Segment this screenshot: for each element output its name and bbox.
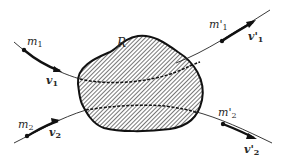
mass-m1-prime-dot	[220, 39, 224, 43]
interaction-region	[78, 36, 203, 131]
region-label: R	[116, 36, 126, 50]
mass-m1-dot	[22, 48, 26, 52]
mass-m1-prime-label: m'1	[209, 18, 228, 32]
velocity-v1-prime-arrow-icon	[246, 20, 256, 28]
mass-m1-label: m1	[27, 35, 43, 49]
velocity-v2-label: v2	[49, 126, 61, 140]
velocity-v1-prime-label: v'1	[248, 30, 263, 44]
diagram-svg: R m1 v1 m2 v2 m'1 v'1 m'2 v'2	[0, 0, 286, 164]
mass-m2-prime-dot	[221, 122, 225, 126]
mass-m2-prime-label: m'2	[218, 106, 237, 120]
velocity-v1-arrow-icon	[53, 66, 62, 72]
velocity-v2-prime-label: v'2	[244, 143, 259, 157]
scattering-diagram: R m1 v1 m2 v2 m'1 v'1 m'2 v'2	[0, 0, 286, 164]
mass-m2-dot	[25, 134, 29, 138]
velocity-v1-label: v1	[46, 74, 58, 88]
mass-m2-label: m2	[18, 118, 34, 132]
